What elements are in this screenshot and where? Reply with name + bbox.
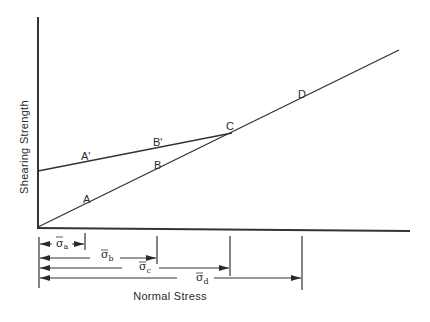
sigma-d-dimension: σd [40,271,301,286]
point-label-c: C [226,120,234,132]
x-axis-label: Normal Stress [133,290,207,302]
point-label-a: A [83,193,91,205]
x-axis [37,228,410,231]
point-label-a-prime: A' [81,150,90,162]
point-label-b: B [154,159,161,171]
point-label-b-prime: B' [153,136,162,148]
envelope-line-prestressed [38,133,232,171]
point-label-d: D [298,88,306,100]
shear-strength-diagram: Shearing Strength A B C D A' B' σa σb [0,0,430,322]
axes [37,17,410,231]
stress-dimension-ticks [39,233,302,290]
sigma-a-label: σa [56,237,69,251]
y-axis-label: Shearing Strength [18,100,30,194]
envelope-line-origin [38,50,399,227]
sigma-a-dimension: σa [40,237,84,251]
